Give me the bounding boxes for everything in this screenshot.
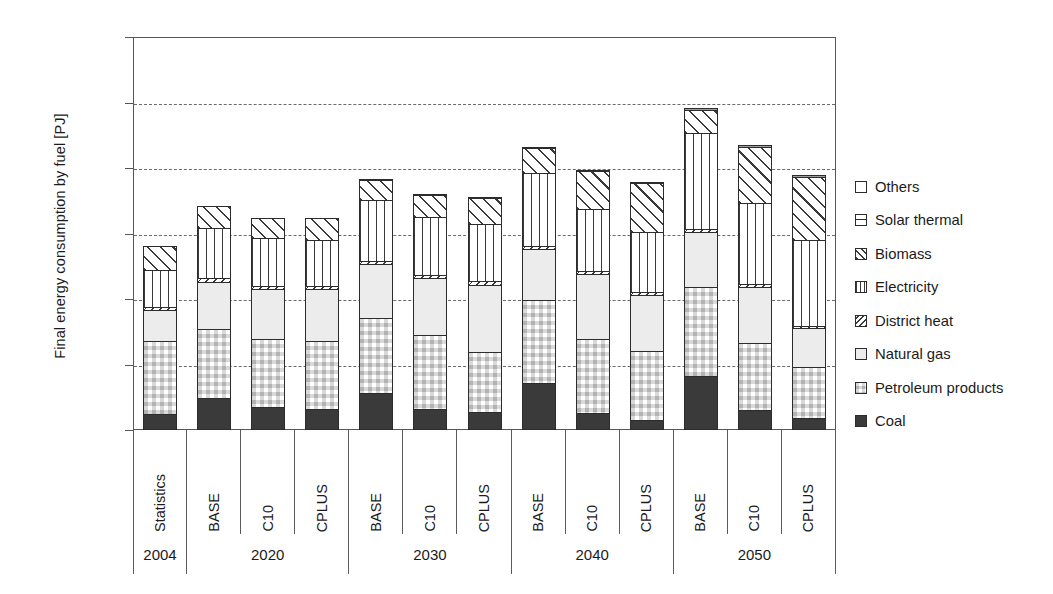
x-axis-scenario-label: BASE — [368, 493, 384, 532]
bar-segment-electricity — [305, 240, 339, 287]
bar-segment-petroleum — [576, 339, 610, 414]
bar-segment-electricity — [576, 209, 610, 272]
bar-segment-biomass — [197, 206, 231, 229]
bar-segment-solar_thermal — [738, 145, 772, 148]
x-axis-scenario-label: BASE — [206, 493, 222, 532]
bar-segment-petroleum — [305, 341, 339, 410]
bar-segment-petroleum — [792, 367, 826, 418]
legend: OthersSolar thermalBiomassElectricityDis… — [855, 170, 1053, 438]
bar-segment-electricity — [359, 200, 393, 262]
bar-segment-natural_gas — [630, 295, 664, 352]
stacked-bar-chart: Final energy consumption by fuel [PJ] 01… — [0, 0, 1053, 594]
bar-base-4 — [359, 180, 393, 430]
bar-segment-coal — [359, 393, 393, 430]
bar-segment-natural_gas — [792, 328, 826, 369]
bar-segment-electricity — [251, 238, 285, 286]
bar-segment-natural_gas — [576, 274, 610, 340]
bar-c10-11 — [738, 146, 772, 430]
legend-swatch-biomass-icon — [855, 248, 867, 260]
bar-segment-petroleum — [738, 343, 772, 411]
bar-segment-coal — [468, 412, 502, 430]
bar-c10-8 — [576, 171, 610, 430]
legend-label: District heat — [875, 313, 953, 329]
legend-item-coal[interactable]: Coal — [855, 405, 1053, 439]
legend-label: Electricity — [875, 279, 938, 295]
bar-segment-electricity — [143, 270, 177, 308]
bar-statistics-0 — [143, 247, 177, 430]
x-axis-cell-10: BASE — [674, 430, 728, 534]
x-axis-cell-7: BASE — [512, 430, 566, 534]
bar-segment-petroleum — [468, 352, 502, 413]
bar-segment-natural_gas — [251, 289, 285, 340]
bar-segment-coal — [413, 409, 447, 430]
x-axis-scenario-label: BASE — [530, 493, 546, 532]
x-axis-year-label-2004: 2004 — [133, 534, 187, 574]
x-axis-cell-5: C10 — [403, 430, 457, 534]
bar-segment-biomass — [792, 177, 826, 241]
legend-label: Biomass — [875, 246, 932, 262]
bar-segment-electricity — [522, 173, 556, 246]
x-axis-cell-1: BASE — [187, 430, 241, 534]
x-axis-cell-0: Statistics — [133, 430, 187, 534]
bar-segment-coal — [792, 418, 826, 430]
x-axis-year-label-2050: 2050 — [674, 534, 836, 574]
bar-cplus-6 — [468, 198, 502, 430]
bar-segment-natural_gas — [143, 310, 177, 342]
bar-segment-biomass — [413, 195, 447, 219]
bar-segment-natural_gas — [197, 282, 231, 330]
bars-layer — [133, 37, 836, 430]
bar-segment-biomass — [468, 198, 502, 226]
bar-segment-biomass — [359, 180, 393, 200]
bar-segment-petroleum — [197, 329, 231, 399]
x-axis-year-label-2040: 2040 — [512, 534, 674, 574]
bar-segment-solar_thermal — [359, 179, 393, 181]
bar-segment-petroleum — [143, 341, 177, 415]
bar-segment-natural_gas — [305, 289, 339, 341]
bar-segment-coal — [305, 409, 339, 430]
legend-item-natural_gas[interactable]: Natural gas — [855, 338, 1053, 372]
bar-segment-coal — [738, 410, 772, 430]
bar-segment-electricity — [413, 217, 447, 275]
x-axis-cell-6: CPLUS — [457, 430, 511, 534]
x-axis-cell-4: BASE — [349, 430, 403, 534]
legend-item-biomass[interactable]: Biomass — [855, 237, 1053, 271]
x-axis-scenario-label: Statistics — [152, 474, 168, 532]
x-axis-cell-2: C10 — [241, 430, 295, 534]
bar-segment-biomass — [522, 148, 556, 174]
legend-item-district_heat[interactable]: District heat — [855, 304, 1053, 338]
legend-item-others[interactable]: Others — [855, 170, 1053, 204]
bar-segment-coal — [576, 413, 610, 430]
x-axis-scenario-label: C10 — [746, 505, 762, 532]
x-axis-scenario-row: StatisticsBASEC10CPLUSBASEC10CPLUSBASEC1… — [133, 430, 836, 534]
legend-item-solar_thermal[interactable]: Solar thermal — [855, 204, 1053, 238]
legend-swatch-petroleum-icon — [855, 382, 867, 394]
legend-label: Natural gas — [875, 346, 951, 362]
legend-label: Coal — [875, 413, 905, 429]
bar-segment-biomass — [630, 183, 664, 233]
bar-segment-solar_thermal — [413, 194, 447, 196]
legend-item-electricity[interactable]: Electricity — [855, 271, 1053, 305]
legend-item-petroleum[interactable]: Petroleum products — [855, 371, 1053, 405]
bar-segment-natural_gas — [468, 285, 502, 353]
bar-segment-natural_gas — [413, 278, 447, 336]
x-axis-year-label-2020: 2020 — [187, 534, 349, 574]
x-axis-scenario-label: C10 — [422, 505, 438, 532]
bar-segment-electricity — [468, 224, 502, 282]
bar-segment-electricity — [684, 133, 718, 230]
x-axis-scenario-label: CPLUS — [314, 484, 330, 532]
bar-segment-petroleum — [630, 351, 664, 421]
bar-cplus-12 — [792, 176, 826, 430]
x-axis-scenario-label: CPLUS — [800, 484, 816, 532]
x-axis-scenario-label: C10 — [260, 505, 276, 532]
bar-segment-solar_thermal — [630, 182, 664, 184]
bar-segment-petroleum — [413, 335, 447, 410]
bar-segment-solar_thermal — [468, 197, 502, 199]
bar-segment-biomass — [143, 246, 177, 271]
bar-c10-2 — [251, 219, 285, 430]
bar-segment-coal — [522, 383, 556, 430]
legend-swatch-others-icon — [855, 181, 867, 193]
legend-swatch-district_heat-icon — [855, 315, 867, 327]
bar-base-1 — [197, 207, 231, 430]
legend-swatch-solar_thermal-icon — [855, 214, 867, 226]
x-axis-cell-11: C10 — [728, 430, 782, 534]
